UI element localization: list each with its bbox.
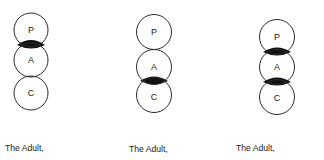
diagram-adult-contaminated-by-parent: P A C [14, 13, 48, 110]
diagram-adult-contaminated-by-parent-and-child: P A C [260, 20, 295, 115]
caption-line: The Adult, [236, 143, 313, 153]
label-a: A [151, 62, 157, 72]
label-p: P [151, 27, 157, 37]
caption-1: The Adult, contaminated by the Parent [5, 122, 57, 160]
diagram-adult-contaminated-by-child: P A C [137, 15, 172, 113]
caption-line: The Adult, [129, 144, 181, 154]
caption-3: The Adult, contaminated by the Parent an… [236, 122, 313, 160]
caption-2: The Adult, contaminated by the Child [129, 123, 181, 160]
label-a: A [28, 55, 34, 65]
label-a: A [274, 62, 280, 72]
label-c: C [274, 93, 281, 103]
label-p: P [274, 32, 280, 42]
label-c: C [28, 88, 35, 98]
label-c: C [151, 92, 158, 102]
label-p: P [28, 25, 34, 35]
caption-line: The Adult, [5, 143, 57, 153]
